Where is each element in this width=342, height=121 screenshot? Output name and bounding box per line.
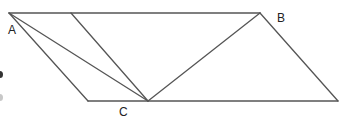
label-A: A — [8, 23, 16, 37]
label-C: C — [119, 105, 128, 119]
segment-BC — [148, 13, 260, 101]
segment-AC — [9, 13, 148, 101]
label-B: B — [277, 11, 285, 25]
segment-DC — [71, 13, 148, 101]
parallelogram-diagram — [0, 0, 342, 121]
segment-left-side — [9, 13, 88, 101]
segment-right-side — [260, 13, 338, 101]
